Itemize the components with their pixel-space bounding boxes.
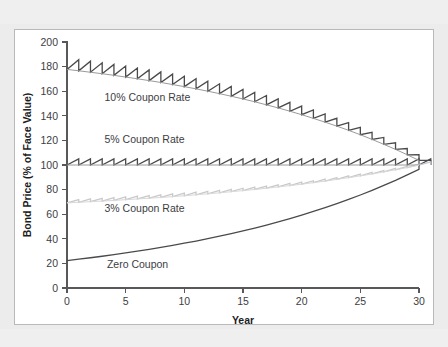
chart-series-group xyxy=(67,60,431,261)
x-tick-label: 15 xyxy=(237,295,249,307)
x-tick-label: 0 xyxy=(64,295,70,307)
series-label: Zero Coupon xyxy=(107,258,168,270)
series-label: 5% Coupon Rate xyxy=(105,133,185,145)
y-axis-ticks: 020406080100120140160180200 xyxy=(40,36,67,294)
x-tick-label: 30 xyxy=(413,295,425,307)
y-tick-label: 200 xyxy=(40,36,58,48)
chart-figure-frame: 020406080100120140160180200051015202530Y… xyxy=(14,29,434,325)
y-tick-label: 0 xyxy=(52,282,58,294)
series-label: 3% Coupon Rate xyxy=(105,202,185,214)
x-tick-label: 5 xyxy=(123,295,129,307)
series-line xyxy=(67,159,431,165)
bond-price-line-chart: 020406080100120140160180200051015202530Y… xyxy=(15,30,433,324)
series-line xyxy=(67,162,431,203)
series-annotations: 10% Coupon Rate5% Coupon Rate3% Coupon R… xyxy=(105,91,191,270)
chart-canvas: 020406080100120140160180200051015202530Y… xyxy=(15,30,433,324)
y-tick-label: 140 xyxy=(40,110,58,122)
series-clean-price-envelope xyxy=(67,69,419,165)
y-tick-label: 80 xyxy=(46,183,58,195)
series-label: 10% Coupon Rate xyxy=(105,91,191,103)
y-tick-label: 100 xyxy=(40,159,58,171)
y-tick-label: 40 xyxy=(46,233,58,245)
y-tick-label: 20 xyxy=(46,257,58,269)
series-clean-price-envelope xyxy=(67,165,419,203)
page-band-bottom xyxy=(0,329,448,347)
x-axis-title: Year xyxy=(232,314,254,324)
y-tick-label: 120 xyxy=(40,134,58,146)
y-axis-title: Bond Price (% of Face Value) xyxy=(21,93,33,238)
x-tick-label: 10 xyxy=(178,295,190,307)
y-tick-label: 160 xyxy=(40,85,58,97)
x-tick-label: 25 xyxy=(354,295,366,307)
page-band-top xyxy=(0,0,448,24)
x-tick-label: 20 xyxy=(296,295,308,307)
y-tick-label: 60 xyxy=(46,208,58,220)
series-line xyxy=(67,60,431,165)
figure-page: 020406080100120140160180200051015202530Y… xyxy=(0,0,448,347)
y-tick-label: 180 xyxy=(40,60,58,72)
x-axis-ticks: 051015202530 xyxy=(64,288,425,307)
